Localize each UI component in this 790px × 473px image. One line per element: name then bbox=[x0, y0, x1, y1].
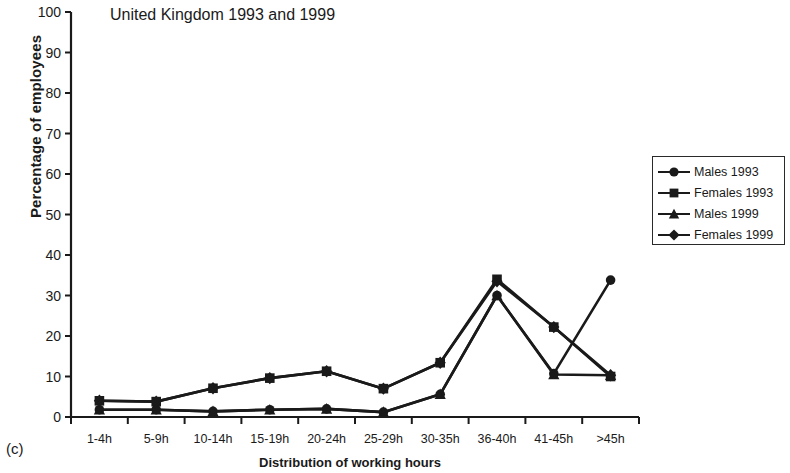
data-series-layer bbox=[94, 275, 616, 417]
svg-text:40: 40 bbox=[45, 247, 61, 263]
square-marker-icon bbox=[657, 186, 691, 200]
circle-marker-icon bbox=[657, 165, 691, 179]
svg-text:20: 20 bbox=[45, 328, 61, 344]
svg-text:100: 100 bbox=[38, 4, 62, 20]
svg-text:20-24h: 20-24h bbox=[307, 432, 346, 446]
svg-text:1-4h: 1-4h bbox=[87, 432, 112, 446]
legend-item-label: Males 1999 bbox=[694, 207, 759, 221]
series-females-1999 bbox=[94, 275, 616, 408]
svg-text:50: 50 bbox=[45, 207, 61, 223]
svg-text:10: 10 bbox=[45, 369, 61, 385]
svg-text:5-9h: 5-9h bbox=[144, 432, 169, 446]
svg-text:30: 30 bbox=[45, 288, 61, 304]
svg-text:15-19h: 15-19h bbox=[250, 432, 289, 446]
svg-text:25-29h: 25-29h bbox=[364, 432, 403, 446]
legend-item: Males 1999 bbox=[653, 203, 784, 224]
svg-text:70: 70 bbox=[45, 126, 61, 142]
legend-item-label: Females 1993 bbox=[694, 186, 773, 200]
legend-item: Females 1993 bbox=[653, 182, 784, 203]
series-males-1993 bbox=[95, 275, 616, 417]
svg-text:30-35h: 30-35h bbox=[421, 432, 460, 446]
legend-item-label: Females 1999 bbox=[694, 228, 773, 242]
legend-item-label: Males 1993 bbox=[694, 165, 759, 179]
chart-figure: Percentage of employees United Kingdom 1… bbox=[0, 0, 790, 473]
diamond-marker-icon bbox=[657, 228, 691, 242]
svg-text:36-40h: 36-40h bbox=[478, 432, 517, 446]
svg-text:90: 90 bbox=[45, 45, 61, 61]
legend: Males 1993 Females 1993 Males 1999 Femal… bbox=[652, 156, 785, 245]
svg-text:80: 80 bbox=[45, 85, 61, 101]
svg-text:60: 60 bbox=[45, 166, 61, 182]
triangle-marker-icon bbox=[657, 207, 691, 221]
x-axis-tick-labels: 1-4h5-9h10-14h15-19h20-24h25-29h30-35h36… bbox=[87, 432, 625, 446]
legend-item: Males 1993 bbox=[653, 161, 784, 182]
y-axis-tick-labels: 0102030405060708090100 bbox=[38, 4, 62, 425]
svg-text:10-14h: 10-14h bbox=[194, 432, 233, 446]
svg-text:>45h: >45h bbox=[597, 432, 625, 446]
svg-text:41-45h: 41-45h bbox=[534, 432, 573, 446]
legend-item: Females 1999 bbox=[653, 224, 784, 245]
series-females-1993 bbox=[95, 275, 616, 407]
svg-text:0: 0 bbox=[53, 409, 61, 425]
